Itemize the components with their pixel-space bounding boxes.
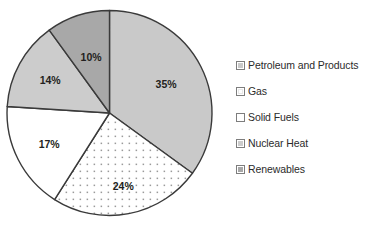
- legend-swatch-petroleum-and-products: [236, 61, 245, 70]
- pie-label-gas: 24%: [113, 180, 135, 192]
- legend-swatch-gas: [236, 87, 245, 96]
- chart-legend: Petroleum and Products Gas Solid Fuels N…: [236, 58, 380, 188]
- pie-label-solid-fuels: 17%: [39, 138, 61, 150]
- legend-item-gas[interactable]: Gas: [236, 84, 380, 98]
- legend-label-gas: Gas: [248, 85, 267, 97]
- pie-slices: [7, 11, 212, 216]
- legend-label-renewables: Renewables: [248, 163, 305, 175]
- pie-label-nuclear-heat: 14%: [40, 74, 62, 86]
- legend-item-petroleum-and-products[interactable]: Petroleum and Products: [236, 58, 380, 72]
- legend-swatch-solid-fuels: [236, 113, 245, 122]
- legend-swatch-nuclear-heat: [236, 139, 245, 148]
- pie-svg: 35% 24% 17% 14% 10%: [0, 0, 226, 226]
- legend-label-petroleum-and-products: Petroleum and Products: [248, 59, 358, 71]
- pie-label-renewables: 10%: [81, 51, 103, 63]
- legend-label-solid-fuels: Solid Fuels: [248, 111, 299, 123]
- pie-chart-figure: 35% 24% 17% 14% 10% Petroleum and Produc…: [0, 0, 380, 226]
- legend-label-nuclear-heat: Nuclear Heat: [248, 137, 308, 149]
- legend-item-nuclear-heat[interactable]: Nuclear Heat: [236, 136, 380, 150]
- legend-item-solid-fuels[interactable]: Solid Fuels: [236, 110, 380, 124]
- pie-plot-area: 35% 24% 17% 14% 10%: [0, 0, 226, 226]
- legend-item-renewables[interactable]: Renewables: [236, 162, 380, 176]
- legend-swatch-renewables: [236, 165, 245, 174]
- pie-label-petroleum: 35%: [156, 78, 178, 90]
